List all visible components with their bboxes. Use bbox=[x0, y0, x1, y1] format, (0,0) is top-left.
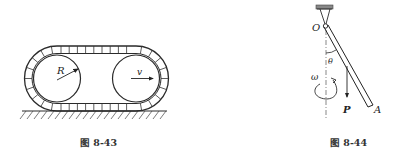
track-link bbox=[41, 100, 45, 106]
rod-OA bbox=[324, 25, 373, 107]
hatch-line bbox=[146, 111, 152, 119]
hatch-line bbox=[83, 111, 89, 119]
caption-fig-8-44: 图 8-44 bbox=[330, 137, 367, 148]
end-label: A bbox=[373, 104, 381, 115]
radius-label: R bbox=[56, 65, 65, 76]
track-link bbox=[51, 46, 52, 53]
hatch-line bbox=[62, 111, 68, 119]
hatch-line bbox=[55, 111, 61, 119]
figure-8-44: O A θ ω P 图 8-44 bbox=[311, 5, 381, 148]
hatch-line bbox=[139, 111, 145, 119]
track-link bbox=[155, 58, 161, 63]
weight-label: P bbox=[342, 104, 351, 115]
velocity-label: v bbox=[137, 67, 142, 77]
ground-hatching bbox=[20, 111, 166, 119]
hatch-line bbox=[97, 111, 103, 119]
track-link bbox=[149, 50, 153, 56]
figure-8-43: R v 图 8-43 bbox=[20, 46, 169, 148]
hinge-bracket bbox=[320, 9, 330, 24]
track-link bbox=[140, 103, 141, 110]
track-link bbox=[155, 95, 161, 100]
theta-label: θ bbox=[328, 57, 333, 66]
hatch-line bbox=[76, 111, 82, 119]
hatch-line bbox=[118, 111, 124, 119]
track-link bbox=[159, 87, 166, 90]
figure-canvas: R v 图 8-43 O A θ ω P bbox=[0, 0, 400, 162]
omega-label: ω bbox=[311, 72, 319, 82]
hatch-line bbox=[132, 111, 138, 119]
hatch-line bbox=[27, 111, 33, 119]
track-link bbox=[149, 100, 153, 106]
hatch-line bbox=[41, 111, 47, 119]
ceiling-support bbox=[316, 5, 333, 9]
track-link bbox=[51, 103, 52, 110]
theta-arc bbox=[326, 50, 336, 53]
track-link bbox=[26, 87, 33, 90]
track-link bbox=[26, 67, 33, 70]
left-wheel bbox=[34, 55, 81, 102]
track-link bbox=[32, 58, 38, 63]
hatch-line bbox=[160, 111, 166, 119]
hatch-line bbox=[111, 111, 117, 119]
track-link bbox=[41, 50, 45, 56]
hatch-line bbox=[34, 111, 40, 119]
hatch-line bbox=[20, 111, 26, 119]
hatch-line bbox=[48, 111, 54, 119]
track-link bbox=[140, 46, 141, 53]
pivot-label: O bbox=[312, 22, 320, 33]
hatch-line bbox=[153, 111, 159, 119]
track-link bbox=[32, 95, 38, 100]
hatch-line bbox=[90, 111, 96, 119]
hatch-line bbox=[69, 111, 75, 119]
hatch-line bbox=[104, 111, 110, 119]
track-link bbox=[159, 67, 166, 70]
caption-fig-8-43: 图 8-43 bbox=[80, 137, 117, 148]
hatch-line bbox=[125, 111, 131, 119]
